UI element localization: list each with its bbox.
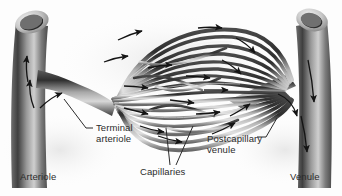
arrow-capillary-2 [198, 27, 222, 28]
label-terminal-arteriole: Terminal arteriole [96, 123, 133, 144]
label-postcapillary-venule: Postcapillary venule [207, 134, 262, 155]
capillary-bed-figure: Terminal arteriole Postcapillary venule … [0, 0, 342, 196]
label-arteriole: Arteriole [20, 172, 56, 183]
label-capillaries: Capillaries [140, 167, 185, 178]
label-venule: Venule [290, 172, 320, 183]
